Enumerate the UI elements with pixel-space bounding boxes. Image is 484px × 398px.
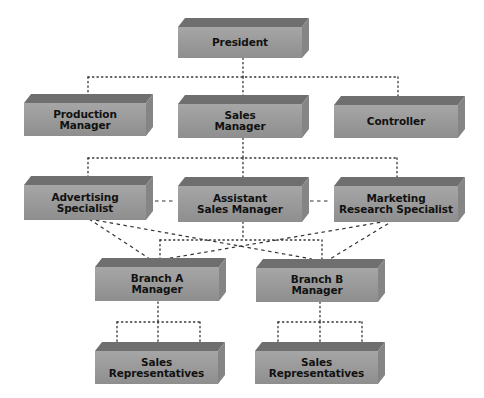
node-label: Assistant Sales Manager — [178, 186, 302, 222]
label-line: Manager — [59, 120, 110, 131]
label-line: Sales Manager — [197, 204, 283, 215]
node-branch-a-manager: Branch A Manager — [95, 258, 226, 301]
node-label: Marketing Research Specialist — [334, 186, 458, 222]
node-label: Sales Manager — [178, 104, 302, 138]
node-assistant-sales-manager: Assistant Sales Manager — [178, 177, 309, 222]
node-label: Sales Representatives — [255, 351, 378, 384]
node-label: Advertising Specialist — [24, 185, 146, 220]
label-line: Controller — [367, 116, 425, 127]
label-line: Representatives — [269, 368, 364, 379]
label-line: President — [212, 37, 268, 48]
node-controller: Controller — [334, 96, 465, 138]
node-marketing-research-specialist: Marketing Research Specialist — [334, 177, 465, 222]
node-label: Branch B Manager — [256, 268, 378, 302]
label-line: Specialist — [57, 203, 114, 214]
node-label: Branch A Manager — [95, 267, 219, 301]
node-production-manager: Production Manager — [24, 94, 153, 136]
label-line: Sales — [141, 357, 172, 368]
label-line: Advertising — [51, 192, 118, 203]
label-line: Representatives — [109, 368, 204, 379]
node-sales-representatives-a: Sales Representatives — [95, 342, 225, 384]
node-label: President — [178, 27, 302, 58]
node-sales-representatives-b: Sales Representatives — [255, 342, 385, 384]
node-label: Sales Representatives — [95, 351, 218, 384]
node-sales-manager: Sales Manager — [178, 95, 309, 138]
node-president: President — [178, 18, 309, 58]
label-line: Manager — [131, 284, 182, 295]
label-line: Manager — [291, 285, 342, 296]
label-line: Manager — [214, 121, 265, 132]
node-label: Production Manager — [24, 103, 146, 136]
node-label: Controller — [334, 105, 458, 138]
label-line: Research Specialist — [339, 204, 453, 215]
node-advertising-specialist: Advertising Specialist — [24, 176, 153, 220]
label-line: Sales — [301, 357, 332, 368]
node-branch-b-manager: Branch B Manager — [256, 259, 385, 302]
label-line: Production — [53, 109, 117, 120]
